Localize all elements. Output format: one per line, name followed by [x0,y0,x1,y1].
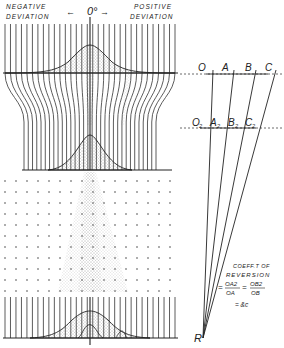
formula-den2: OB [251,290,260,296]
hatch-line [76,73,79,122]
hatch-line [71,73,75,122]
formula-num1: OA2 [225,281,238,287]
hatch-line [156,73,175,122]
svg-text:2: 2 [234,123,238,129]
positive-label-line1: POSITIVE [134,3,172,10]
hatch-line [21,73,36,122]
formula-line2: REVERSION [226,272,270,278]
point-B2-label: B 2 [228,117,238,129]
point-A2-label: A 2 [209,117,220,129]
point-O-label: O [198,62,206,73]
hatch-line [143,73,158,122]
hatch-line [96,73,98,122]
formula-num2: OB2 [250,281,263,287]
reversion-diagram: NEGATIVE DEVIATION ← 0° → POSITIVE DEVIA… [0,0,284,348]
hatch-line [10,73,28,122]
formula-eq1: = [218,283,223,292]
hatch-line [5,73,24,122]
svg-text:B: B [228,117,235,128]
right-arrow-icon: → [100,7,109,17]
middle-distribution-curve [22,135,172,170]
reversion-formula: COEFF.T OF REVERSION = OA2 OA = OB2 OB =… [218,263,270,308]
reversion-construction: O A B C O 2 A 2 B 2 C 2 R [180,62,284,344]
point-R-label: R [194,332,202,344]
point-A-label: A [221,62,229,73]
formula-line1: COEFF.T OF [233,263,270,269]
left-arrow-icon: ← [66,7,75,17]
top-distribution-curve [3,45,178,73]
hatch-line [82,73,84,122]
negative-label-line2: DEVIATION [6,13,50,20]
hatch-line [152,73,170,122]
hatch-line [105,73,109,122]
svg-text:2: 2 [216,123,220,129]
bottom-distribution-curve [3,311,178,338]
svg-text:2: 2 [198,123,202,129]
zero-degree-label: 0° [87,5,98,17]
svg-text:A: A [209,117,217,128]
point-C-label: C [265,62,273,73]
negative-label-line1: NEGATIVE [6,3,46,10]
formula-den1: OA [226,290,235,296]
point-C2-label: C 2 [245,117,255,129]
stipple-trail-upper-right [121,73,130,125]
formula-eq2: = [242,283,247,292]
hatch-line [16,73,33,122]
point-B-label: B [245,62,252,73]
hatch-line [147,73,164,122]
hatch-line [101,73,104,122]
hatch-line [54,73,62,122]
formula-etc: = &c [235,301,249,308]
ray-R-C [203,70,276,338]
positive-label-line2: DEVIATION [130,13,174,20]
svg-text:2: 2 [251,123,255,129]
stipple-trail-upper [86,73,94,125]
point-O2-label: O 2 [192,117,202,129]
